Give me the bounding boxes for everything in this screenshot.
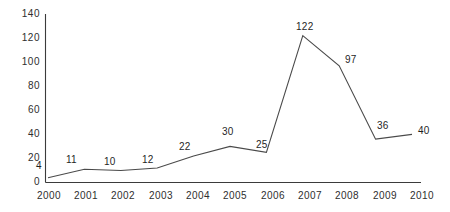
y-tick-120: 120 [14, 33, 40, 43]
data-label-2005: 30 [222, 127, 234, 137]
y-tick-60: 60 [14, 105, 40, 115]
y-tick-0: 0 [14, 177, 40, 187]
data-label-2000: 4 [36, 161, 42, 171]
data-series-line [48, 36, 412, 178]
line-chart: 140 120 100 80 60 40 20 0 2000 2001 2002… [0, 0, 450, 212]
data-label-2002: 10 [104, 157, 116, 167]
y-tick-40: 40 [14, 129, 40, 139]
y-tick-100: 100 [14, 57, 40, 67]
data-label-2007: 122 [296, 22, 314, 32]
data-label-2009: 36 [377, 121, 389, 131]
y-tick-140: 140 [14, 9, 40, 19]
data-label-2001: 11 [66, 155, 77, 165]
data-label-2010: 40 [418, 126, 430, 136]
y-tick-80: 80 [14, 81, 40, 91]
x-tick-2010: 2010 [400, 191, 444, 201]
data-label-2006: 25 [256, 140, 268, 150]
data-label-2004: 22 [179, 142, 191, 152]
data-label-2003: 12 [142, 155, 154, 165]
chart-plot-area [0, 0, 450, 212]
data-label-2008: 97 [345, 55, 357, 65]
